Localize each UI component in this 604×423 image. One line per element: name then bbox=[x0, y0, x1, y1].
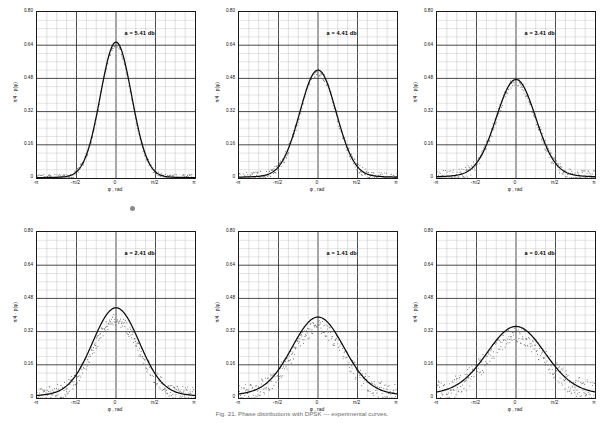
x-tick-label: 0 bbox=[104, 179, 126, 185]
figure-caption: Fig. 21. Phase distributions with DPSK -… bbox=[0, 410, 604, 423]
annotation-a-value-1: a = 5.41 db bbox=[124, 30, 154, 36]
plot-area-4 bbox=[36, 231, 196, 399]
y-tick-label: 0.80 bbox=[410, 228, 433, 233]
x-tick-label: π bbox=[183, 179, 205, 185]
x-tick-label: π/2 bbox=[346, 179, 368, 185]
annotation-a-value-3: a = 3.41 db bbox=[524, 30, 554, 36]
y-tick-label: 0.64 bbox=[212, 42, 235, 47]
y-tick-label: 0.16 bbox=[10, 141, 33, 146]
scan-artifact-speck bbox=[130, 206, 135, 211]
x-tick-label: -π bbox=[25, 399, 47, 405]
x-tick-label: 0 bbox=[306, 179, 328, 185]
x-tick-label: -π/2 bbox=[64, 179, 86, 185]
x-tick-label: 0 bbox=[504, 399, 526, 405]
minor-gridlines bbox=[37, 12, 195, 178]
x-tick-label: -π bbox=[425, 399, 447, 405]
x-axis-label: φ , rad bbox=[85, 186, 145, 192]
x-tick-label: 0 bbox=[306, 399, 328, 405]
plot-svg-1 bbox=[37, 12, 195, 178]
x-tick-label: -π/2 bbox=[464, 399, 486, 405]
annotation-a-value-6: a = 0.41 db bbox=[524, 250, 554, 256]
y-tick-label: 0.16 bbox=[212, 361, 235, 366]
x-tick-label: 0 bbox=[104, 399, 126, 405]
annotation-a-value-2: a = 4.41 db bbox=[326, 30, 356, 36]
chart-panel-1: a = 5.41 db00.160.320.480.640.80-π-π/20π… bbox=[2, 2, 203, 212]
y-axis-label: π/4 · p(φ) bbox=[13, 292, 18, 334]
y-axis-label: π/4 · p(φ) bbox=[13, 72, 18, 114]
y-tick-label: 0.80 bbox=[10, 8, 33, 13]
x-axis-label: φ , rad bbox=[287, 186, 347, 192]
minor-gridlines bbox=[437, 12, 595, 178]
y-axis-label: π/4 · p(φ) bbox=[413, 72, 418, 114]
x-tick-label: π bbox=[583, 179, 604, 185]
y-tick-label: 0.64 bbox=[410, 262, 433, 267]
minor-gridlines bbox=[37, 232, 195, 398]
x-tick-label: -π bbox=[425, 179, 447, 185]
chart-panel-6: a = 0.41 db00.160.320.480.640.80-π-π/20π… bbox=[402, 222, 603, 423]
x-tick-label: -π bbox=[25, 179, 47, 185]
x-tick-label: -π/2 bbox=[464, 179, 486, 185]
minor-gridlines bbox=[239, 12, 397, 178]
chart-panel-4: a = 2.41 db00.160.320.480.640.80-π-π/20π… bbox=[2, 222, 203, 423]
y-axis-label: π/4 · p(φ) bbox=[215, 292, 220, 334]
plot-area-6 bbox=[436, 231, 596, 399]
x-tick-label: -π/2 bbox=[266, 399, 288, 405]
x-tick-label: π bbox=[583, 399, 604, 405]
x-tick-label: π bbox=[183, 399, 205, 405]
x-tick-label: -π/2 bbox=[64, 399, 86, 405]
plot-svg-6 bbox=[437, 232, 595, 398]
x-tick-label: 0 bbox=[504, 179, 526, 185]
plot-area-5 bbox=[238, 231, 398, 399]
x-tick-label: -π/2 bbox=[266, 179, 288, 185]
y-tick-label: 0.16 bbox=[410, 141, 433, 146]
minor-gridlines bbox=[239, 232, 397, 398]
y-tick-label: 0.16 bbox=[410, 361, 433, 366]
annotation-a-value-5: a = 1.41 db bbox=[326, 250, 356, 256]
y-tick-label: 0.16 bbox=[10, 361, 33, 366]
x-axis-label: φ , rad bbox=[485, 186, 545, 192]
plot-area-2 bbox=[238, 11, 398, 179]
plot-area-1 bbox=[36, 11, 196, 179]
x-tick-label: π/2 bbox=[544, 179, 566, 185]
minor-gridlines bbox=[437, 232, 595, 398]
plot-svg-4 bbox=[37, 232, 195, 398]
plot-area-3 bbox=[436, 11, 596, 179]
chart-panel-5: a = 1.41 db00.160.320.480.640.80-π-π/20π… bbox=[204, 222, 405, 423]
chart-panel-2: a = 4.41 db00.160.320.480.640.80-π-π/20π… bbox=[204, 2, 405, 212]
annotation-a-value-4: a = 2.41 db bbox=[124, 250, 154, 256]
y-tick-label: 0.64 bbox=[212, 262, 235, 267]
x-tick-label: π/2 bbox=[144, 179, 166, 185]
plot-svg-3 bbox=[437, 12, 595, 178]
plot-svg-5 bbox=[239, 232, 397, 398]
figure-panel-grid: a = 5.41 db00.160.320.480.640.80-π-π/20π… bbox=[0, 0, 604, 423]
x-tick-label: π/2 bbox=[144, 399, 166, 405]
y-tick-label: 0.64 bbox=[410, 42, 433, 47]
plot-svg-2 bbox=[239, 12, 397, 178]
y-tick-label: 0.16 bbox=[212, 141, 235, 146]
y-tick-label: 0.64 bbox=[10, 262, 33, 267]
y-axis-label: π/4 · p(φ) bbox=[413, 292, 418, 334]
y-tick-label: 0.80 bbox=[212, 228, 235, 233]
x-tick-label: π/2 bbox=[346, 399, 368, 405]
y-tick-label: 0.80 bbox=[410, 8, 433, 13]
x-tick-label: -π bbox=[227, 179, 249, 185]
x-tick-label: -π bbox=[227, 399, 249, 405]
y-axis-label: π/4 · p(φ) bbox=[215, 72, 220, 114]
y-tick-label: 0.64 bbox=[10, 42, 33, 47]
x-tick-label: π/2 bbox=[544, 399, 566, 405]
y-tick-label: 0.80 bbox=[10, 228, 33, 233]
y-tick-label: 0.80 bbox=[212, 8, 235, 13]
chart-panel-3: a = 3.41 db00.160.320.480.640.80-π-π/20π… bbox=[402, 2, 603, 212]
